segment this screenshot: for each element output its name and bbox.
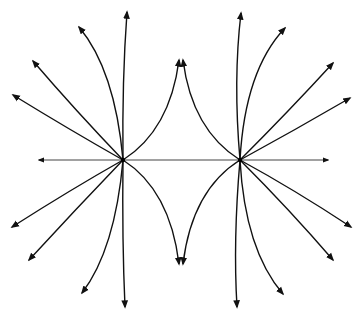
field-line-right-up-diag xyxy=(240,63,333,160)
field-line-left-up-diag xyxy=(33,61,123,160)
field-line-left-down-diag xyxy=(29,160,123,260)
field-line-right-to-top-cusp xyxy=(183,60,240,160)
field-line-right-to-bottom-cusp xyxy=(183,160,240,264)
field-line-left-down-straight-far xyxy=(12,160,123,227)
left-charge-dot xyxy=(121,158,125,162)
field-line-right-up-vertical xyxy=(237,13,241,160)
field-line-diagram xyxy=(0,0,361,320)
field-line-left-up-straight-far xyxy=(13,95,123,160)
field-line-left-to-bottom-cusp xyxy=(123,160,179,264)
field-line-left-down-vertical xyxy=(123,160,125,307)
field-line-right-down-vertical xyxy=(236,160,240,307)
field-line-right-up-straight-far xyxy=(240,98,350,160)
right-charge-dot xyxy=(238,158,242,162)
field-line-left-to-top-cusp xyxy=(123,60,179,160)
field-line-right-up-curve xyxy=(240,28,285,160)
field-line-left-up-vertical xyxy=(123,12,127,160)
field-line-right-down-diag xyxy=(240,160,333,260)
field-line-left-up-curve xyxy=(79,27,123,160)
